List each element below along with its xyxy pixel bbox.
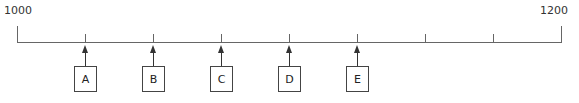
marker-box-e: E (346, 66, 369, 92)
marker-box-b: B (142, 66, 165, 92)
tick-4 (289, 34, 290, 42)
arrow-line (289, 52, 290, 66)
end-tick (561, 26, 562, 43)
end-year-label: 1200 (540, 4, 568, 17)
marker-box-a: A (74, 66, 97, 92)
tick-5 (357, 34, 358, 42)
timeline-axis (17, 42, 561, 43)
tick-2 (153, 34, 154, 42)
marker-box-c: C (210, 66, 233, 92)
start-year-label: 1000 (4, 4, 32, 17)
tick-6 (425, 34, 426, 42)
start-tick (17, 26, 18, 43)
arrow-line (153, 52, 154, 66)
tick-1 (85, 34, 86, 42)
tick-7 (493, 34, 494, 42)
arrow-line (221, 52, 222, 66)
marker-box-d: D (278, 66, 301, 92)
arrow-line (357, 52, 358, 66)
tick-3 (221, 34, 222, 42)
arrow-line (85, 52, 86, 66)
